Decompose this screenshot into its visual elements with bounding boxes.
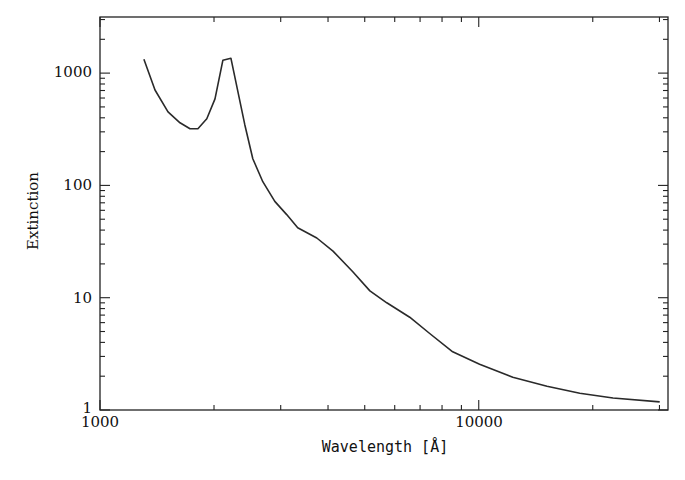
x-tick-label-1000: 1000 <box>81 413 119 431</box>
y-tick-label-10: 10 <box>73 289 92 307</box>
y-tick-label-1000: 1000 <box>54 63 92 81</box>
plot-frame <box>100 17 668 410</box>
x-tick-label-10000: 10000 <box>455 413 503 431</box>
extinction-chart: 1000 100 10 1 1000 10000 Wavelength [Å] … <box>0 0 685 480</box>
axis-ticks <box>100 17 668 410</box>
y-axis-label: Extinction <box>24 172 42 250</box>
x-axis-label: Wavelength [Å] <box>322 437 448 456</box>
extinction-curve <box>144 58 660 402</box>
y-tick-label-100: 100 <box>63 176 92 194</box>
